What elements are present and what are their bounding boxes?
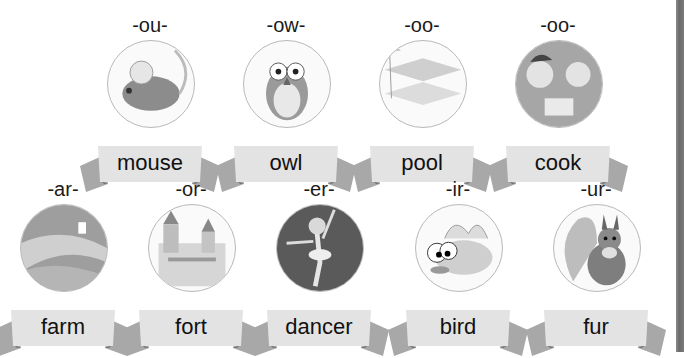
farm-illustration-icon — [21, 205, 107, 291]
word-banner: fort — [121, 308, 261, 358]
sound-label: -ur- — [531, 178, 661, 201]
word-label: cook — [488, 146, 628, 180]
pool-illustration — [379, 40, 467, 128]
word-label: mouse — [80, 146, 220, 180]
sound-label: -ow- — [221, 14, 351, 37]
word-card-farm: -ar- farm — [0, 178, 128, 358]
owl-illustration-icon — [244, 41, 330, 127]
word-card-dancer: -er- dancer — [254, 178, 384, 358]
cooking-kids-illustration-icon — [516, 41, 602, 127]
bird-illustration — [415, 204, 503, 292]
word-label: farm — [0, 310, 133, 344]
pool-illustration-icon — [380, 41, 466, 127]
word-banner: bird — [388, 308, 528, 358]
word-label: owl — [216, 146, 356, 180]
word-banner: fur — [526, 308, 666, 358]
word-card-fur: -ur- fur — [531, 178, 661, 358]
castle-illustration-icon — [149, 205, 235, 291]
word-card-mouse: -ou- mouse — [85, 14, 215, 194]
ballerina-illustration — [276, 204, 364, 292]
sound-label: -er- — [254, 178, 384, 201]
word-label: pool — [352, 146, 492, 180]
sound-label: -oo- — [357, 14, 487, 37]
word-card-owl: -ow- owl — [221, 14, 351, 194]
word-label: bird — [388, 310, 528, 344]
word-card-pool: -oo- pool — [357, 14, 487, 194]
ballerina-illustration-icon — [277, 205, 363, 291]
bird-illustration-icon — [416, 205, 502, 291]
word-card-cook: -oo- cook — [493, 14, 623, 194]
castle-illustration — [148, 204, 236, 292]
sound-label: -ou- — [85, 14, 215, 37]
sound-label: -oo- — [493, 14, 623, 37]
sound-label: -or- — [126, 178, 256, 201]
word-banner: farm — [0, 308, 133, 358]
word-card-bird: -ir- bird — [393, 178, 523, 358]
farm-illustration — [20, 204, 108, 292]
word-card-fort: -or- fort — [126, 178, 256, 358]
mouse-illustration-icon — [108, 41, 194, 127]
owl-illustration — [243, 40, 331, 128]
sound-label: -ar- — [0, 178, 128, 201]
word-label: dancer — [249, 310, 389, 344]
squirrel-illustration-icon — [554, 205, 640, 291]
cooking-kids-illustration — [515, 40, 603, 128]
mouse-illustration — [107, 40, 195, 128]
sound-label: -ir- — [393, 178, 523, 201]
word-label: fort — [121, 310, 261, 344]
page-edge — [676, 0, 684, 352]
word-banner: dancer — [249, 308, 389, 358]
word-label: fur — [526, 310, 666, 344]
squirrel-illustration — [553, 204, 641, 292]
